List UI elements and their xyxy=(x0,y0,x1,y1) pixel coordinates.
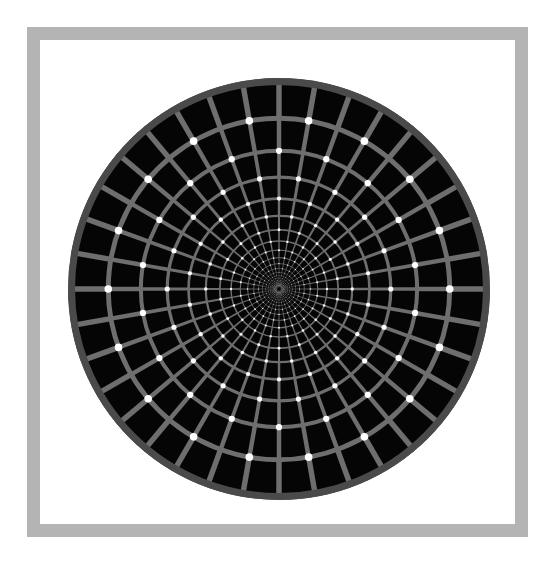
illusion-canvas xyxy=(0,0,559,574)
polar-grid-figure xyxy=(0,0,559,574)
disc-cells xyxy=(68,78,490,500)
disc-group xyxy=(68,78,490,500)
